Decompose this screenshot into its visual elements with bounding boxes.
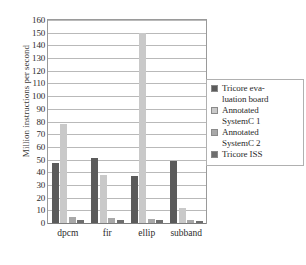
y-tick-100: 100 [32, 92, 45, 101]
y-tick-50: 50 [36, 155, 45, 164]
y-tick-120: 120 [32, 66, 45, 75]
bar-groups [48, 20, 206, 223]
bar-dpcm-tricore-evaluation-board [52, 163, 59, 223]
legend-label: Tricore eva-luation board [222, 83, 268, 104]
y-tick-60: 60 [36, 142, 45, 151]
y-tick-40: 40 [36, 168, 45, 177]
legend-swatch-icon [211, 85, 218, 92]
bar-fir-annotated-systemc-1 [100, 175, 107, 223]
y-tick-90: 90 [36, 104, 45, 113]
bar-ellip-tricore-evaluation-board [131, 176, 138, 223]
legend-label: AnnotatedSystemC 1 [222, 105, 260, 126]
bar-fir-tricore-evaluation-board [91, 158, 98, 223]
legend-swatch-icon [211, 151, 218, 158]
bar-fir-annotated-systemc-2 [108, 218, 115, 223]
x-tick-ellip: ellip [138, 227, 155, 239]
bar-chart-figure: Million instructions per second 16015014… [0, 0, 306, 265]
bar-ellip-annotated-systemc-1 [139, 33, 146, 223]
legend-item-tricore-iss: Tricore ISS [211, 149, 300, 160]
legend-item-annotated-systemc-2: AnnotatedSystemC 2 [211, 127, 300, 148]
bar-ellip-tricore-iss [156, 220, 163, 223]
chart-legend: Tricore eva-luation boardAnnotatedSystem… [206, 79, 304, 166]
y-tick-160: 160 [32, 16, 45, 25]
x-tick-subband: subband [170, 227, 202, 239]
legend-swatch-icon [211, 107, 218, 114]
y-tick-150: 150 [32, 28, 45, 37]
legend-item-annotated-systemc-1: AnnotatedSystemC 1 [211, 105, 300, 126]
y-tick-130: 130 [32, 54, 45, 63]
x-tick-dpcm: dpcm [57, 227, 78, 239]
x-tick-fir: fir [103, 227, 112, 239]
y-tick-70: 70 [36, 130, 45, 139]
bar-subband-annotated-systemc-2 [187, 220, 194, 223]
y-tick-30: 30 [36, 180, 45, 189]
y-tick-140: 140 [32, 41, 45, 50]
bar-ellip-annotated-systemc-2 [148, 219, 155, 223]
legend-item-tricore-evaluation-board: Tricore eva-luation board [211, 83, 300, 104]
y-axis-tick-labels: 1601501401301201101009080706050403020100 [17, 19, 45, 224]
bar-group-dpcm [48, 20, 88, 223]
gridline-0 [48, 223, 206, 224]
legend-label: Tricore ISS [222, 149, 262, 160]
bar-subband-tricore-evaluation-board [170, 161, 177, 223]
bar-dpcm-annotated-systemc-2 [69, 217, 76, 223]
x-axis-tick-labels: dpcmfirellipsubband [48, 227, 206, 243]
legend-label: AnnotatedSystemC 2 [222, 127, 260, 148]
y-tick-20: 20 [36, 193, 45, 202]
bar-group-fir [88, 20, 128, 223]
bar-subband-tricore-iss [196, 221, 203, 223]
y-tick-110: 110 [32, 79, 45, 88]
y-tick-80: 80 [36, 117, 45, 126]
bar-group-ellip [127, 20, 167, 223]
bar-subband-annotated-systemc-1 [179, 208, 186, 223]
bar-dpcm-annotated-systemc-1 [60, 124, 67, 223]
y-tick-0: 0 [41, 219, 45, 228]
bar-group-subband [167, 20, 207, 223]
bar-dpcm-tricore-iss [77, 220, 84, 223]
bar-fir-tricore-iss [117, 220, 124, 223]
legend-swatch-icon [211, 129, 218, 136]
y-tick-10: 10 [36, 206, 45, 215]
